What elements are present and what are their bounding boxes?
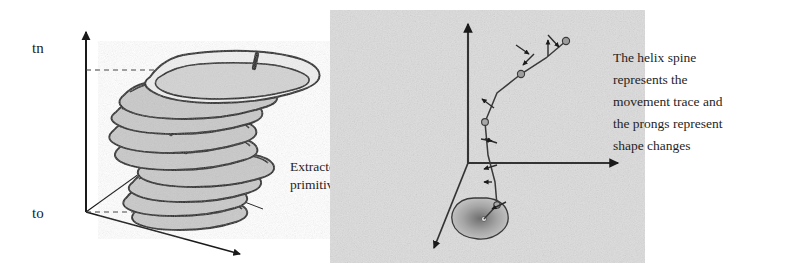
right-panel: [330, 10, 645, 263]
left-panel: tn to: [32, 32, 381, 254]
note-line-3: movement trace and: [613, 94, 723, 109]
axis-label-tn: tn: [32, 40, 44, 56]
note-line-5: shape changes: [613, 138, 691, 153]
spine-node-2: [482, 119, 489, 126]
figure-root: tn to: [0, 0, 801, 278]
note-line-1: The helix spine: [613, 50, 696, 65]
axis-label-to: to: [32, 205, 44, 221]
prong-9: [254, 54, 257, 68]
note-line-2: represents the: [613, 72, 688, 87]
note-line-4: the prongs represent: [613, 116, 723, 131]
slice-stack: [109, 51, 319, 230]
spine-node-4: [562, 37, 569, 44]
spine-node-3: [517, 70, 524, 77]
slice-9-top: [145, 51, 319, 103]
